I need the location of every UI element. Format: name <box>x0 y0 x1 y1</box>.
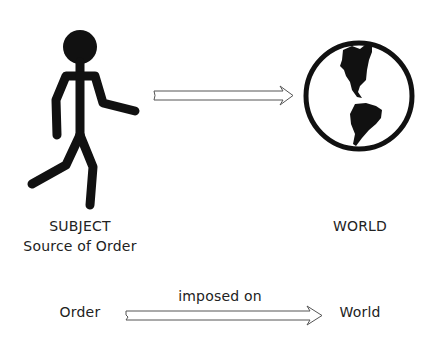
relation-to-label: World <box>339 304 380 320</box>
double-line-arrow-right-icon <box>154 86 293 105</box>
stick-figure-walking-icon <box>32 30 135 205</box>
subject-subtitle: Source of Order <box>23 238 136 254</box>
relation-from-label: Order <box>60 304 101 320</box>
globe-americas-icon <box>306 43 412 149</box>
world-label: WORLD <box>333 218 387 234</box>
subject-label: SUBJECT <box>49 218 110 234</box>
relation-verb-label: imposed on <box>178 288 262 304</box>
double-line-arrow-right-icon <box>126 306 322 325</box>
